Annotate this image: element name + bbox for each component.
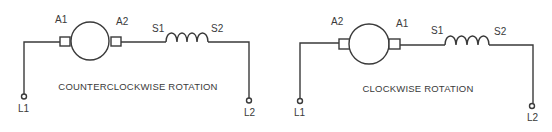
label-field-start: S1 [431, 26, 443, 36]
terminal-l2-icon [530, 104, 535, 109]
series-field-coil-icon [166, 33, 208, 42]
label-field-start: S1 [152, 24, 164, 34]
rotation-caption: COUNTERCLOCKWISE ROTATION [58, 82, 217, 92]
series-field-coil-icon [445, 36, 489, 45]
label-field-end: S2 [211, 24, 223, 34]
label-line1: L1 [294, 108, 305, 118]
wire-l1 [300, 43, 339, 98]
wire-l2 [489, 45, 533, 103]
terminal-l1-icon [22, 94, 27, 99]
label-right-brush: A1 [396, 19, 408, 29]
brush-a1-icon [389, 39, 400, 49]
label-left-brush: A1 [55, 15, 67, 25]
terminal-l1-icon [298, 99, 303, 104]
label-field-end: S2 [494, 27, 506, 37]
label-left-brush: A2 [331, 17, 343, 27]
label-line2: L2 [244, 108, 255, 118]
terminal-l2-icon [247, 98, 252, 103]
brush-a2-icon [111, 37, 121, 46]
wiring-diagrams [0, 0, 552, 132]
label-line1: L1 [18, 104, 29, 114]
armature-motor-icon [349, 24, 389, 64]
rotation-caption: CLOCKWISE ROTATION [363, 84, 474, 94]
armature-motor-icon [71, 22, 109, 60]
brush-a1-icon [60, 37, 70, 46]
wire-l1 [24, 42, 60, 94]
label-line2: L2 [527, 113, 538, 123]
label-right-brush: A2 [116, 17, 128, 27]
